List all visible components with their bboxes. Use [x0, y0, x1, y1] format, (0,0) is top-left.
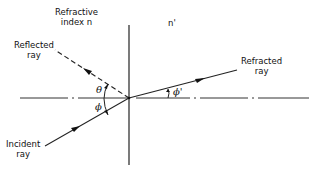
diagram-canvas — [0, 0, 319, 174]
incident-ray-label: Incident ray — [6, 139, 40, 159]
arc-arrowhead-top — [104, 84, 108, 89]
incident-ray — [45, 98, 129, 146]
incident-ray-label-line2: ray — [6, 149, 40, 159]
reflected-ray — [55, 50, 129, 98]
angle-phi-label: ϕ — [95, 102, 102, 112]
incident-ray-arrowhead — [71, 126, 80, 132]
refracted-ray-arrowhead — [195, 78, 205, 83]
reflected-ray-label: Reflected ray — [14, 40, 54, 60]
medium-left-label-line2: index n — [55, 17, 98, 27]
reflected-ray-label-line2: ray — [14, 50, 54, 60]
medium-left-label: Refractive index n — [55, 7, 98, 27]
refracted-ray — [129, 70, 237, 98]
refracted-ray-label-line2: ray — [241, 66, 282, 76]
refraction-diagram: Refractive index n n' Reflected ray Refr… — [0, 0, 319, 174]
refracted-ray-label: Refracted ray — [241, 56, 282, 76]
angle-theta-label: θ — [96, 85, 102, 95]
angle-phi-prime-label: ϕ' — [173, 87, 183, 97]
point-of-incidence — [128, 97, 131, 100]
medium-right-label: n' — [168, 18, 176, 28]
reflected-ray-label-line1: Reflected — [14, 40, 54, 50]
refracted-ray-label-line1: Refracted — [241, 56, 282, 66]
medium-left-label-line1: Refractive — [55, 7, 98, 17]
incident-ray-label-line1: Incident — [6, 139, 40, 149]
reflected-ray-arrowhead — [83, 68, 92, 75]
arc-arrowhead-phi-prime — [166, 89, 170, 92]
